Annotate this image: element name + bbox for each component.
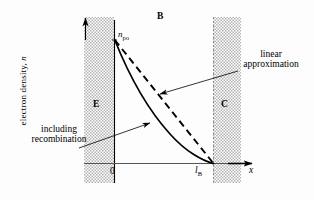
origin-tick-label: 0	[110, 167, 115, 177]
collector-region-label: C	[221, 100, 228, 110]
base-width-tick-label: lB	[195, 166, 202, 178]
linear-approximation-line2: approximation	[232, 60, 310, 70]
npo-label: npo	[118, 30, 129, 42]
y-axis-label-text: electron density,	[18, 63, 28, 125]
linear-approximation-annotation: linear approximation	[232, 50, 310, 70]
npo-label-sub: po	[123, 34, 130, 41]
including-recombination-line2: recombination	[16, 135, 102, 145]
figure-canvas: electron density, n npo 0 lB x E B C lin…	[0, 0, 314, 200]
base-region-label: B	[157, 12, 163, 22]
x-axis-label: x	[249, 166, 253, 176]
y-axis-label-symbol: n	[18, 56, 28, 61]
including-recombination-annotation: including recombination	[16, 125, 102, 145]
diagram-svg	[0, 0, 314, 200]
base-width-sub: B	[198, 170, 202, 177]
emitter-region-label: E	[93, 100, 99, 110]
curve-linear-approximation	[115, 40, 214, 164]
